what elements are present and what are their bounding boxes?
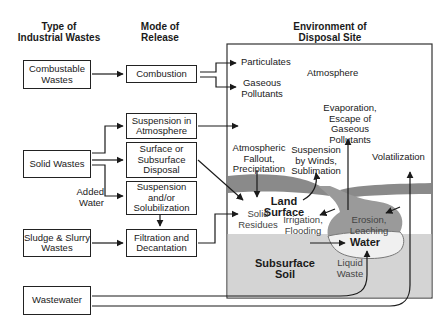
- box-combustable-wastes: Combustable Wastes: [23, 60, 91, 89]
- box-suspension-in-atmosphere: Suspension in Atmosphere: [126, 113, 197, 139]
- box-sludge-slurry-wastes: Sludge & Slurry Wastes: [23, 229, 91, 257]
- label-gaseous-pollutants: Gaseous Pollutants: [237, 78, 287, 99]
- label-solid-residues: Solid Residues: [236, 209, 280, 230]
- label-irrigation-flooding: Irrigation, Flooding: [278, 215, 328, 236]
- label-added-water: Added Water: [70, 187, 104, 208]
- header-environment-of-disposal-site: Environment of Disposal Site: [275, 21, 385, 43]
- label-volatilization: Volatilization: [372, 152, 425, 163]
- box-suspension-and-or-solubilization: Suspension and/or Solubilization: [126, 181, 197, 215]
- label-atmosphere: Atmosphere: [307, 68, 358, 79]
- label-liquid-waste: Liquid Waste: [332, 258, 368, 279]
- header-type-of-industrial-wastes: Type of Industrial Wastes: [14, 21, 104, 43]
- box-combustion: Combustion: [126, 65, 197, 83]
- box-filtration-and-decantation: Filtration and Decantation: [126, 229, 197, 257]
- box-solid-wastes: Solid Wastes: [23, 150, 91, 178]
- label-erosion-leaching: Erosion, Leaching: [344, 215, 394, 236]
- label-particulates: Particulates: [241, 57, 291, 68]
- label-suspension-by-winds: Suspension by Winds, Sublimation: [291, 145, 341, 177]
- label-subsurface-soil: Subsurface Soil: [250, 258, 320, 280]
- label-evaporation: Evaporation, Escape of Gaseous Pollutant…: [322, 103, 378, 145]
- label-atmospheric-fallout: Atmospheric Fallout, Precipitation: [231, 143, 287, 175]
- box-wastewater: Wastewater: [23, 286, 91, 315]
- header-mode-of-release: Mode of Release: [125, 21, 195, 43]
- box-surface-or-subsurface-disposal: Surface or Subsurface Disposal: [126, 142, 197, 178]
- label-water: Water: [350, 237, 380, 248]
